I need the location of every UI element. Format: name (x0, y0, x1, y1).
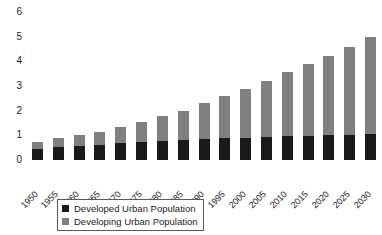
legend-swatch-developing-icon (62, 218, 69, 225)
y-axis-tick-label: 2 (16, 106, 22, 116)
bar-column (157, 12, 168, 160)
x-axis-tick-label: 2030 (348, 190, 373, 215)
bar-column (323, 12, 334, 160)
bar-segment-developed (261, 137, 272, 160)
stacked-bar-chart: 0123456 19501955196019651970197519801985… (0, 0, 382, 235)
bar-segment-developing (94, 132, 105, 145)
x-axis: 1950195519601965197019751980198519901995… (30, 160, 378, 196)
x-axis-tick-label: 2020 (306, 190, 331, 215)
bar-segment-developing (323, 56, 334, 135)
bar-segment-developed (365, 134, 376, 160)
chart-legend: Developed Urban Population Developing Ur… (57, 199, 204, 231)
bar-segment-developed (115, 143, 126, 160)
bar-column (136, 12, 147, 160)
y-axis-tick-label: 4 (16, 56, 22, 66)
bar-segment-developing (178, 111, 189, 140)
bar-segment-developed (240, 138, 251, 160)
y-axis-tick-label: 3 (16, 81, 22, 91)
legend-label-developed: Developed Urban Population (74, 204, 195, 214)
bar-segment-developed (94, 145, 105, 160)
bar-segment-developing (219, 96, 230, 138)
bar-column (303, 12, 314, 160)
bar-column (178, 12, 189, 160)
bar-column (219, 12, 230, 160)
bar-column (344, 12, 355, 160)
bar-column (199, 12, 210, 160)
y-axis-tick-label: 5 (16, 32, 22, 42)
bar-segment-developed (199, 139, 210, 160)
bar-column (74, 12, 85, 160)
bar-segment-developing (240, 89, 251, 138)
bar-segment-developed (344, 135, 355, 160)
bar-column (240, 12, 251, 160)
x-axis-tick-label: 2025 (327, 190, 352, 215)
plot-area (30, 12, 378, 160)
bar-segment-developed (323, 135, 334, 160)
bar-column (94, 12, 105, 160)
bar-column (32, 12, 43, 160)
bar-segment-developing (115, 127, 126, 143)
bar-segment-developed (303, 136, 314, 160)
bar-segment-developed (178, 140, 189, 160)
bar-segment-developing (53, 138, 64, 147)
bar-segment-developing (32, 142, 43, 149)
x-axis-tick-label: 1995 (202, 190, 227, 215)
bar-segment-developing (157, 116, 168, 141)
bar-segment-developed (32, 149, 43, 160)
bar-segment-developing (74, 135, 85, 146)
bar-column (282, 12, 293, 160)
bar-column (365, 12, 376, 160)
bar-column (115, 12, 126, 160)
bar-segment-developing (261, 81, 272, 137)
legend-item-developing: Developing Urban Population (62, 215, 198, 228)
bar-segment-developing (199, 103, 210, 139)
bar-segment-developing (282, 72, 293, 136)
bar-series-group (30, 12, 378, 160)
y-axis: 0123456 (0, 12, 28, 160)
legend-item-developed: Developed Urban Population (62, 202, 198, 215)
bar-segment-developed (219, 138, 230, 160)
legend-label-developing: Developing Urban Population (74, 217, 198, 227)
bar-segment-developing (136, 122, 147, 142)
x-axis-tick-label: 2000 (223, 190, 248, 215)
x-axis-tick-label: 2005 (244, 190, 269, 215)
bar-segment-developing (344, 47, 355, 135)
x-axis-tick-label: 2015 (285, 190, 310, 215)
bar-column (53, 12, 64, 160)
x-axis-tick-label: 1950 (15, 190, 40, 215)
bar-segment-developed (282, 136, 293, 160)
bar-column (261, 12, 272, 160)
legend-swatch-developed-icon (62, 205, 69, 212)
bar-segment-developing (303, 64, 314, 135)
y-axis-tick-label: 1 (16, 130, 22, 140)
bar-segment-developing (365, 37, 376, 134)
x-axis-tick-label: 2010 (265, 190, 290, 215)
bar-segment-developed (157, 141, 168, 160)
bar-segment-developed (74, 146, 85, 160)
y-axis-tick-label: 6 (16, 7, 22, 17)
bar-segment-developed (136, 142, 147, 160)
bar-segment-developed (53, 147, 64, 160)
y-axis-tick-label: 0 (16, 155, 22, 165)
